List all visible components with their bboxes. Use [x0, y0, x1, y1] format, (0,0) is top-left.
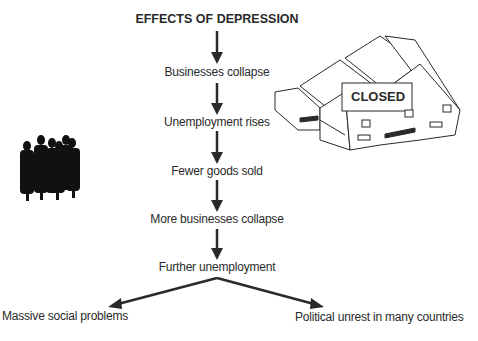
step-fewer-goods-sold: Fewer goods sold — [171, 164, 263, 178]
outcome-political-unrest: Political unrest in many countries — [295, 310, 464, 324]
diagram-title: EFFECTS OF DEPRESSION — [135, 12, 298, 26]
step-further-unemployment: Further unemployment — [159, 260, 276, 274]
outcome-social-problems: Massive social problems — [2, 309, 128, 323]
step-businesses-collapse: Businesses collapse — [165, 65, 270, 79]
step-unemployment-rises: Unemployment rises — [164, 115, 270, 129]
people-group-illustration — [20, 135, 80, 201]
step-more-businesses-collapse: More businesses collapse — [150, 212, 283, 226]
closed-sign: CLOSED — [351, 89, 405, 104]
